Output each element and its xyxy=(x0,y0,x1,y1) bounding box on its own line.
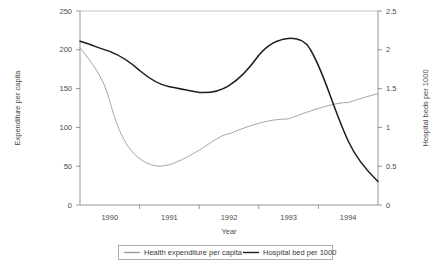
right-axis-title: Hospital beds per 1000 xyxy=(421,69,430,146)
left-tick-150: 150 xyxy=(59,84,72,93)
x-axis-ticks xyxy=(140,205,319,209)
right-tick-0: 0 xyxy=(386,201,390,210)
legend-label-hospital-beds: Hospital bed per 1000 xyxy=(263,248,336,257)
left-tick-200: 200 xyxy=(59,45,72,54)
right-tick-0-5: 0.5 xyxy=(386,162,396,171)
series-health-expenditure xyxy=(80,48,378,167)
x-axis-title: Year xyxy=(221,227,237,236)
left-axis-title: Expenditure per capita xyxy=(13,70,22,146)
legend-label-health-expenditure: Health expenditure per capita xyxy=(144,248,243,257)
chart-container: 0 50 100 150 200 250 0 0.5 1 1.5 2 2.5 1… xyxy=(0,0,446,267)
right-tick-2: 2 xyxy=(386,45,390,54)
x-tick-1992: 1992 xyxy=(221,213,238,222)
left-tick-250: 250 xyxy=(59,7,72,16)
right-tick-1: 1 xyxy=(386,123,390,132)
x-tick-1991: 1991 xyxy=(161,213,178,222)
left-axis-ticks xyxy=(76,11,80,205)
left-tick-0: 0 xyxy=(68,201,72,210)
x-tick-1994: 1994 xyxy=(340,213,357,222)
left-tick-100: 100 xyxy=(59,123,72,132)
series-hospital-beds xyxy=(80,38,378,181)
right-tick-2-5: 2.5 xyxy=(386,7,396,16)
right-axis-ticks xyxy=(378,11,382,205)
x-tick-1993: 1993 xyxy=(280,213,297,222)
right-tick-1-5: 1.5 xyxy=(386,84,396,93)
line-chart: 0 50 100 150 200 250 0 0.5 1 1.5 2 2.5 1… xyxy=(0,0,446,267)
left-tick-50: 50 xyxy=(64,162,72,171)
x-tick-1990: 1990 xyxy=(101,213,118,222)
